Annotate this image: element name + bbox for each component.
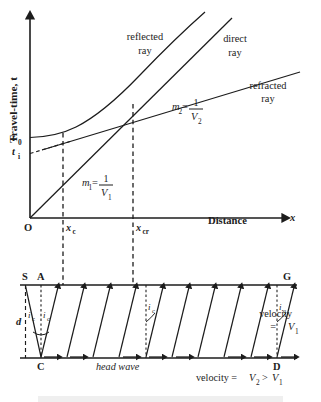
xcr-sub: cr bbox=[143, 228, 150, 236]
cut-off-caption-strip bbox=[38, 396, 283, 402]
depth-label: d bbox=[16, 316, 22, 327]
t0-sub: 0 bbox=[18, 138, 22, 147]
m1-equals: = bbox=[92, 177, 98, 188]
m2-denom-sub: 2 bbox=[198, 117, 202, 126]
velocity-lower-relation: > bbox=[262, 372, 268, 383]
m2-equals: = bbox=[182, 101, 188, 112]
caption-fragment bbox=[38, 396, 283, 402]
seismic-refraction-figure: Travel-time, t Distance x O x c x cr t 0… bbox=[0, 0, 321, 402]
point-label-D: D bbox=[273, 361, 281, 372]
refracted-ray-label-line1: refracted bbox=[250, 80, 288, 91]
ic-left-sub: c bbox=[32, 315, 35, 322]
velocity-upper-eq: = bbox=[270, 321, 276, 332]
m1-denom-sub: 1 bbox=[108, 193, 112, 202]
origin-label: O bbox=[24, 222, 32, 233]
point-label-G: G bbox=[283, 271, 291, 282]
figure-background bbox=[0, 0, 321, 402]
velocity-lower-prefix: velocity = bbox=[196, 372, 237, 383]
velocity-lower-v1-sub: 1 bbox=[279, 378, 283, 387]
velocity-upper-v-sub: 1 bbox=[295, 327, 299, 336]
xc-base: x bbox=[65, 222, 71, 233]
direct-ray-label-line2: ray bbox=[228, 47, 242, 58]
point-label-C: C bbox=[37, 361, 45, 372]
velocity-lower-v2-sub: 2 bbox=[256, 378, 260, 387]
reflected-ray-label-line1: reflected bbox=[127, 31, 164, 42]
refracted-ray-label-line2: ray bbox=[261, 93, 275, 104]
ti-sub: i bbox=[18, 152, 20, 161]
point-label-A: A bbox=[37, 271, 45, 282]
reflected-ray-label-line2: ray bbox=[138, 45, 152, 56]
m2-numerator: 1 bbox=[194, 97, 199, 108]
ic-mid-sub: c bbox=[152, 307, 155, 314]
xcr-base: x bbox=[135, 222, 141, 233]
m1-numerator: 1 bbox=[104, 173, 109, 184]
point-label-S: S bbox=[22, 271, 28, 282]
direct-ray-label-line1: direct bbox=[223, 33, 247, 44]
x-axis-symbol: x bbox=[289, 212, 295, 223]
x-axis-label: Distance bbox=[208, 215, 247, 226]
velocity-upper-line1: velocity bbox=[259, 308, 293, 319]
head-wave-label: head wave bbox=[96, 361, 140, 372]
